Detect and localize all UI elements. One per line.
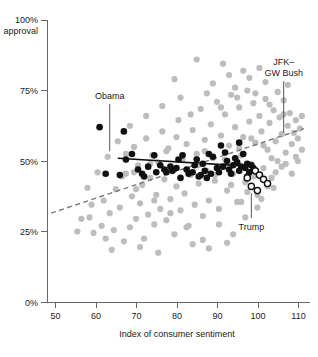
data-point	[99, 223, 105, 229]
data-point	[103, 235, 109, 241]
data-point	[244, 87, 250, 93]
data-point	[273, 169, 279, 175]
data-point	[145, 163, 152, 170]
data-point	[285, 123, 291, 129]
data-point	[74, 228, 80, 234]
data-point	[256, 113, 262, 119]
data-point	[268, 155, 274, 161]
data-point	[218, 133, 224, 139]
x-axis-ticks	[56, 302, 299, 308]
data-point	[105, 154, 111, 160]
jfk-gw-bush-label-line1: JFK–	[273, 57, 294, 67]
data-point	[264, 180, 270, 186]
data-point	[299, 147, 305, 153]
data-point	[157, 206, 163, 212]
data-point	[206, 151, 213, 158]
data-point	[216, 169, 223, 176]
data-point	[226, 142, 232, 148]
data-point	[208, 121, 214, 127]
data-point	[200, 213, 206, 219]
data-point	[230, 231, 236, 237]
data-point	[133, 186, 139, 192]
data-point	[214, 99, 220, 105]
data-point	[246, 75, 252, 81]
x-tick-label-100: 100	[250, 311, 265, 321]
data-point	[115, 138, 121, 144]
data-point	[177, 94, 183, 100]
data-point	[202, 168, 209, 175]
data-point	[117, 204, 123, 210]
trump-label: Trump	[238, 222, 264, 232]
data-point	[151, 152, 158, 159]
data-point	[236, 139, 243, 146]
data-point	[254, 204, 260, 210]
scatter-plot-svg: 100% approval 75% 50% 25% 0% 50 60 70 80…	[0, 0, 318, 357]
data-point	[216, 221, 222, 227]
data-point	[244, 189, 250, 195]
data-point	[173, 183, 179, 189]
data-point	[262, 79, 268, 85]
data-point	[159, 103, 165, 109]
data-point	[94, 169, 100, 175]
data-point	[171, 231, 177, 237]
data-point	[260, 165, 266, 171]
y-tick-label-0: 0%	[25, 298, 38, 308]
data-point	[121, 128, 128, 135]
data-point	[96, 124, 103, 131]
data-point	[206, 245, 212, 251]
data-point	[204, 90, 210, 96]
data-point	[143, 113, 149, 119]
data-point	[151, 197, 157, 203]
data-point	[200, 237, 206, 243]
data-point	[153, 192, 159, 198]
data-point	[183, 224, 189, 230]
data-point	[127, 123, 133, 129]
y-axis: 100% approval 75% 50% 25% 0%	[3, 15, 47, 308]
data-point	[258, 128, 264, 134]
data-point	[248, 135, 254, 141]
data-point	[190, 241, 196, 247]
data-point	[151, 221, 157, 227]
data-point	[145, 211, 151, 217]
data-point	[270, 185, 276, 191]
data-point	[141, 235, 147, 241]
data-point	[206, 197, 212, 203]
data-point	[293, 117, 299, 123]
data-point	[258, 196, 264, 202]
data-point	[109, 247, 115, 253]
data-point	[107, 210, 113, 216]
data-point	[194, 151, 200, 157]
data-point	[222, 111, 228, 117]
data-point	[228, 92, 234, 98]
data-point	[279, 164, 285, 170]
data-point	[285, 82, 291, 88]
data-point	[224, 240, 230, 246]
data-point	[289, 141, 295, 147]
data-point	[173, 134, 179, 140]
data-point	[171, 76, 177, 82]
x-tick-label-110: 110	[291, 311, 305, 321]
data-point	[123, 156, 130, 163]
data-point	[234, 94, 240, 100]
data-point	[199, 161, 206, 168]
data-point	[123, 151, 129, 157]
data-point	[226, 72, 232, 78]
data-point	[240, 68, 246, 74]
data-point	[117, 172, 124, 179]
data-point	[88, 202, 94, 208]
data-point	[244, 175, 250, 181]
y-axis-ticks	[41, 20, 47, 302]
data-point	[191, 162, 198, 169]
data-point	[139, 170, 146, 177]
x-tick-label-80: 80	[172, 311, 182, 321]
x-tick-label-90: 90	[212, 311, 222, 321]
data-point	[238, 199, 244, 205]
data-point	[194, 56, 200, 62]
data-point	[242, 214, 248, 220]
data-point	[268, 175, 274, 181]
data-point	[143, 135, 149, 141]
data-point	[224, 158, 231, 165]
data-point	[86, 214, 92, 220]
data-point	[299, 113, 305, 119]
data-point	[218, 142, 225, 149]
